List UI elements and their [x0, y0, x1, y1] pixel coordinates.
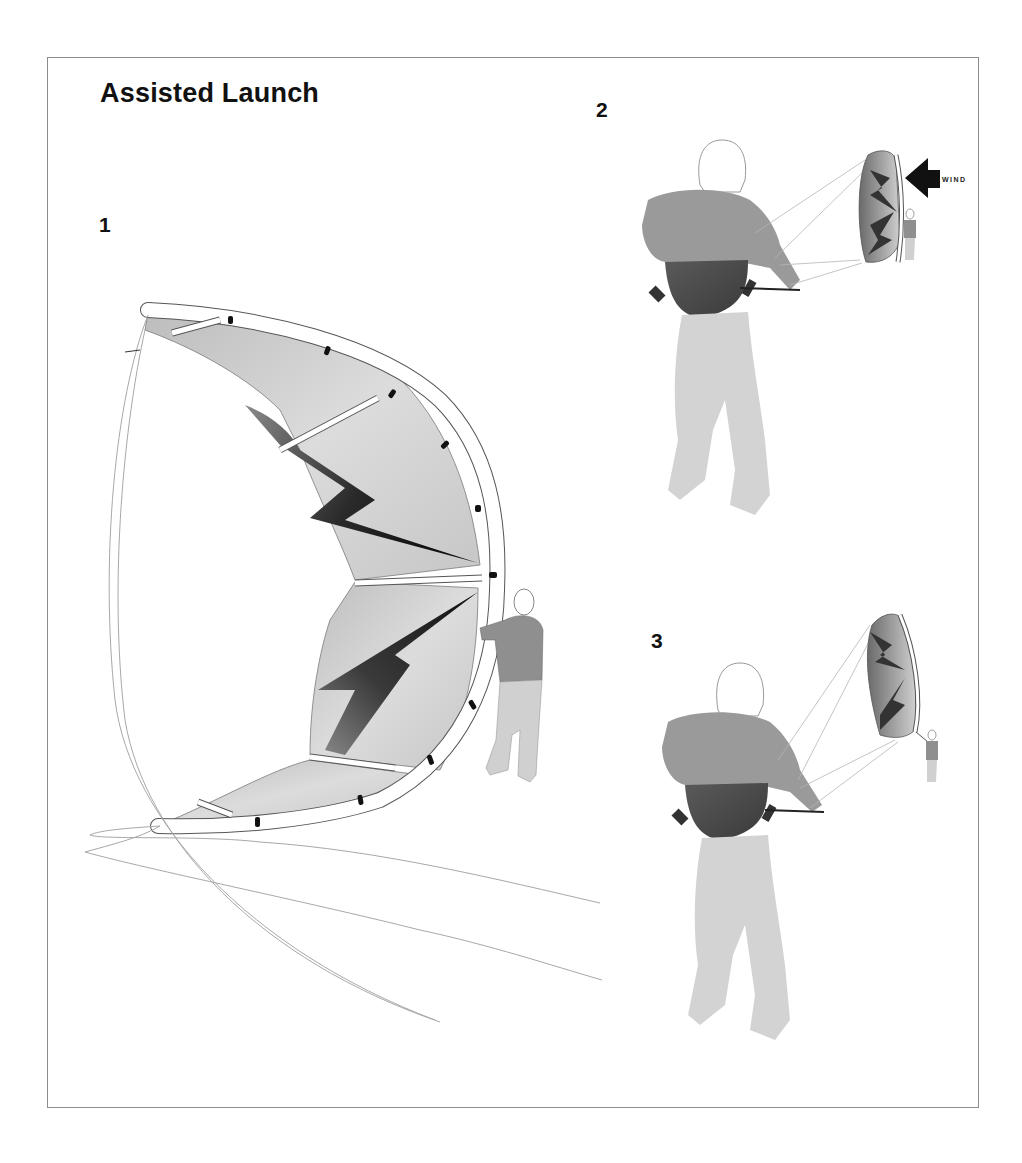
- assistant-pants: [486, 680, 542, 782]
- panel-3-rider: [662, 625, 898, 1040]
- rider-harness: [685, 783, 768, 840]
- rider-harness: [665, 260, 748, 318]
- panel-2-rider: [642, 140, 870, 515]
- kite-canopy-upper: [145, 313, 480, 580]
- arrow-left-icon: [905, 158, 940, 198]
- rider-pants: [668, 312, 770, 515]
- rider-head: [717, 663, 764, 716]
- rider-head: [699, 140, 746, 192]
- assistant-head: [514, 589, 534, 615]
- rider-pants: [688, 835, 790, 1040]
- panel-2-small-kite: [859, 151, 916, 262]
